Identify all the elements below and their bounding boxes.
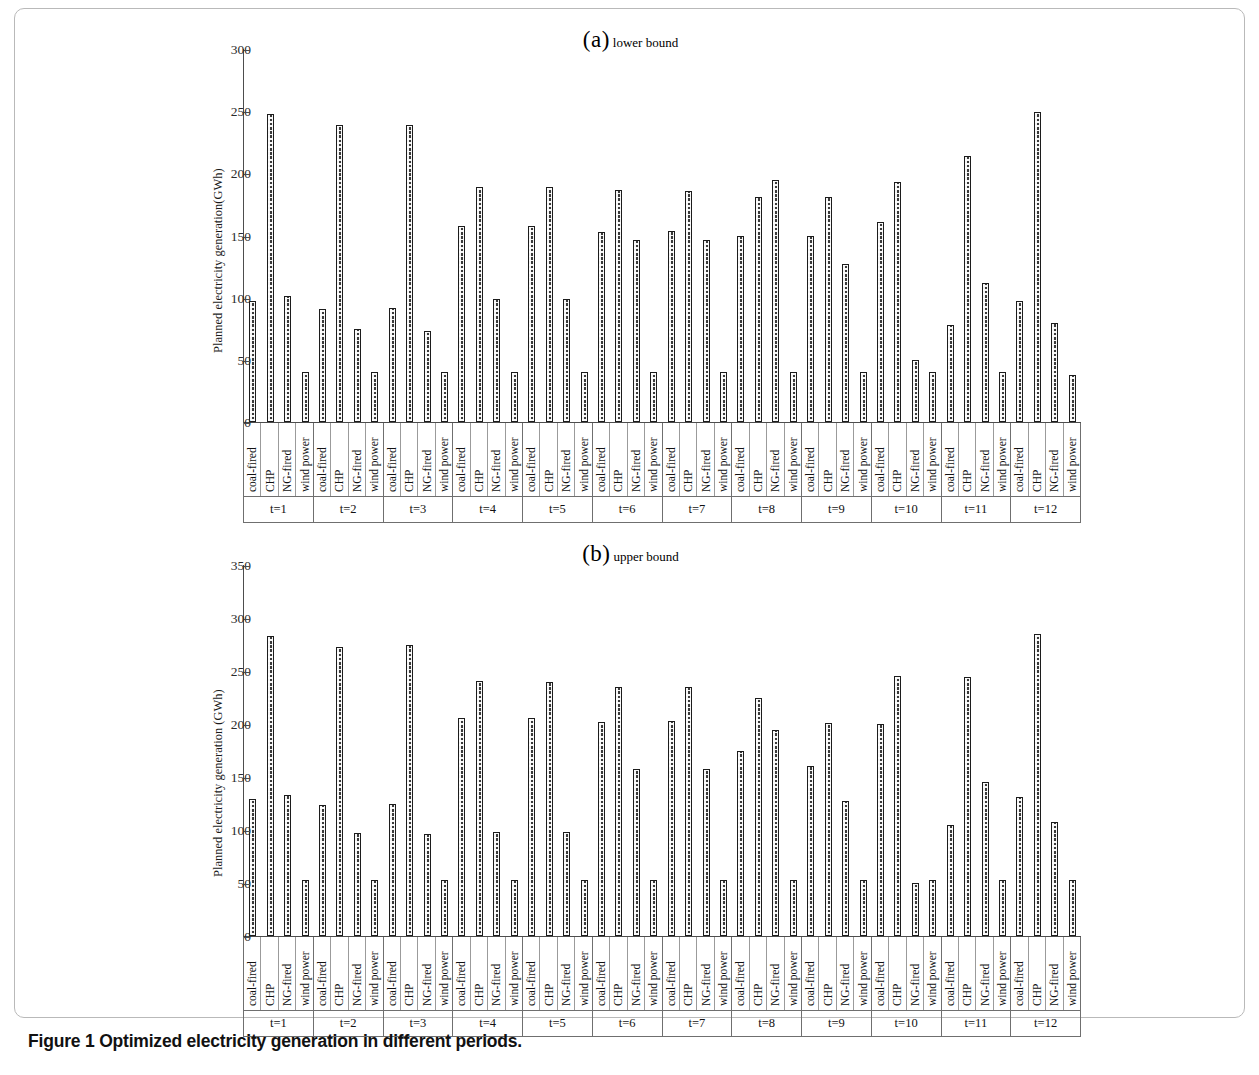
bar bbox=[685, 687, 692, 936]
category-group: coal-firedCHPNG-firedwind power bbox=[802, 423, 872, 496]
category-label: coal-fired bbox=[595, 961, 607, 1006]
category-label: CHP bbox=[822, 984, 834, 1006]
category-cell: wind power bbox=[854, 423, 870, 496]
category-label: NG-fired bbox=[909, 964, 921, 1006]
category-label: NG-fired bbox=[769, 964, 781, 1006]
category-label: CHP bbox=[682, 470, 694, 492]
period-label: t=8 bbox=[732, 1011, 802, 1036]
bar bbox=[615, 687, 622, 936]
panel-b-category-band: coal-firedCHPNG-firedwind powercoal-fire… bbox=[243, 937, 1081, 1011]
category-label: CHP bbox=[891, 470, 903, 492]
category-cell: wind power bbox=[1064, 937, 1080, 1010]
bar bbox=[1034, 634, 1041, 936]
category-label: NG-fired bbox=[560, 964, 572, 1006]
bar-slot bbox=[471, 565, 488, 936]
category-group: coal-firedCHPNG-firedwind power bbox=[314, 937, 384, 1010]
category-group: coal-firedCHPNG-firedwind power bbox=[593, 423, 663, 496]
bar-group bbox=[523, 565, 593, 936]
category-label: coal-fired bbox=[525, 961, 537, 1006]
category-cell: CHP bbox=[750, 937, 767, 1010]
bar bbox=[1034, 112, 1041, 422]
category-label: coal-fired bbox=[1013, 447, 1025, 492]
category-label: wind power bbox=[996, 951, 1008, 1006]
bar-slot bbox=[540, 49, 557, 422]
bar-group bbox=[593, 565, 663, 936]
bar bbox=[528, 718, 535, 936]
category-cell: wind power bbox=[506, 423, 522, 496]
category-cell: NG-fired bbox=[907, 423, 924, 496]
category-label: coal-fired bbox=[595, 447, 607, 492]
panel-b-y-tick-mark bbox=[244, 619, 250, 620]
category-cell: CHP bbox=[261, 423, 278, 496]
bar-slot bbox=[889, 565, 906, 936]
category-cell: coal-fired bbox=[942, 423, 959, 496]
bar-slot bbox=[767, 49, 784, 422]
category-label: wind power bbox=[508, 951, 520, 1006]
category-cell: coal-fired bbox=[453, 937, 470, 1010]
bar bbox=[790, 880, 797, 936]
bar bbox=[929, 880, 936, 936]
panel-a-title-sub: lower bound bbox=[613, 35, 678, 50]
category-cell: CHP bbox=[331, 423, 348, 496]
category-cell: CHP bbox=[889, 937, 906, 1010]
category-label: CHP bbox=[752, 470, 764, 492]
category-cell: NG-fired bbox=[976, 423, 993, 496]
bar-slot bbox=[314, 565, 331, 936]
category-group: coal-firedCHPNG-firedwind power bbox=[732, 937, 802, 1010]
period-label: t=4 bbox=[453, 497, 523, 522]
bar bbox=[284, 296, 291, 422]
bar bbox=[267, 114, 274, 422]
category-cell: wind power bbox=[715, 423, 731, 496]
category-label: wind power bbox=[1066, 437, 1078, 492]
category-label: wind power bbox=[996, 437, 1008, 492]
bar-slot bbox=[872, 49, 889, 422]
category-label: NG-fired bbox=[769, 450, 781, 492]
category-cell: wind power bbox=[366, 937, 382, 1010]
panel-a-y-tick-mark bbox=[244, 174, 250, 175]
bar bbox=[650, 880, 657, 936]
bar-slot bbox=[1029, 49, 1046, 422]
category-label: coal-fired bbox=[386, 447, 398, 492]
bar bbox=[912, 360, 919, 422]
category-cell: NG-fired bbox=[976, 937, 993, 1010]
category-cell: coal-fired bbox=[732, 423, 749, 496]
bar bbox=[406, 645, 413, 937]
category-group: coal-firedCHPNG-firedwind power bbox=[663, 937, 733, 1010]
period-label: t=6 bbox=[593, 497, 663, 522]
category-label: NG-fired bbox=[490, 964, 502, 1006]
bar-slot bbox=[1011, 565, 1028, 936]
bar bbox=[511, 880, 518, 936]
period-label: t=12 bbox=[1011, 497, 1080, 522]
category-cell: wind power bbox=[296, 423, 312, 496]
category-cell: NG-fired bbox=[488, 423, 505, 496]
category-cell: wind power bbox=[785, 937, 801, 1010]
bar-slot bbox=[819, 49, 836, 422]
category-cell: CHP bbox=[680, 937, 697, 1010]
bar-slot bbox=[261, 49, 278, 422]
category-label: coal-fired bbox=[525, 447, 537, 492]
category-group: coal-firedCHPNG-firedwind power bbox=[314, 423, 384, 496]
period-label: t=3 bbox=[384, 497, 454, 522]
bar-slot bbox=[837, 49, 854, 422]
bar-slot bbox=[976, 49, 993, 422]
category-label: NG-fired bbox=[700, 450, 712, 492]
category-label: wind power bbox=[1066, 951, 1078, 1006]
category-cell: coal-fired bbox=[1011, 423, 1028, 496]
bar-slot bbox=[349, 49, 366, 422]
category-label: CHP bbox=[473, 984, 485, 1006]
bar-slot bbox=[418, 49, 435, 422]
category-group: coal-firedCHPNG-firedwind power bbox=[942, 937, 1012, 1010]
category-cell: NG-fired bbox=[1046, 423, 1063, 496]
bar bbox=[825, 723, 832, 936]
category-group: coal-firedCHPNG-firedwind power bbox=[244, 937, 314, 1010]
category-group: coal-firedCHPNG-firedwind power bbox=[453, 937, 523, 1010]
bar bbox=[894, 182, 901, 422]
category-label: CHP bbox=[543, 984, 555, 1006]
bar-group bbox=[314, 49, 384, 422]
panel-b-title-sub: upper bound bbox=[613, 549, 678, 564]
category-label: NG-fired bbox=[281, 450, 293, 492]
bar-slot bbox=[959, 565, 976, 936]
bar bbox=[947, 325, 954, 422]
category-label: wind power bbox=[926, 437, 938, 492]
category-cell: CHP bbox=[819, 937, 836, 1010]
